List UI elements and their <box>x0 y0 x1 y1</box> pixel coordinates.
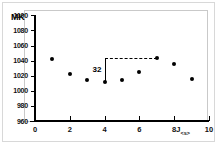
x-axis-tick <box>105 116 106 121</box>
data-point <box>155 56 159 60</box>
x-axis-tick-label: 10 <box>201 126 217 134</box>
data-point <box>68 72 72 76</box>
y-axis-tick-label: 1000 <box>2 87 28 94</box>
y-axis-tick-label: 1040 <box>2 57 28 64</box>
y-axis-tick-label: 1080 <box>2 27 28 34</box>
y-axis-tick-label: 980 <box>2 102 28 109</box>
x-axis-tick <box>139 116 140 121</box>
data-point <box>137 70 141 74</box>
data-point <box>50 57 54 61</box>
y-axis-tick-label: 960 <box>2 118 28 125</box>
y-axis-tick <box>31 106 36 107</box>
y-axis-tick <box>31 46 36 47</box>
x-axis-tick <box>209 116 210 121</box>
data-point <box>103 80 107 84</box>
y-axis-tick <box>30 121 37 122</box>
data-point <box>85 78 89 82</box>
x-axis-tick-label: 0 <box>27 126 43 134</box>
y-axis-tick <box>31 76 36 77</box>
chart-screenshot: MK J<s> 960980100010201040106010801100 0… <box>0 0 219 145</box>
x-axis-tick-label: 4 <box>97 126 113 134</box>
y-axis-tick <box>31 91 36 92</box>
plot-area: MK J<s> 960980100010201040106010801100 0… <box>0 0 219 145</box>
y-axis-tick <box>31 15 36 16</box>
y-axis-tick-label: 1020 <box>2 72 28 79</box>
y-axis-tick-label: 1100 <box>2 12 28 19</box>
data-point <box>172 62 176 66</box>
x-axis-tick-label: 6 <box>131 126 147 134</box>
x-axis-tick-label: 2 <box>62 126 78 134</box>
x-axis-tick-label: 8 <box>166 126 182 134</box>
annotation-vertical-line <box>105 58 106 81</box>
y-axis-tick <box>31 30 36 31</box>
annotation-dashed-line <box>105 58 157 59</box>
data-point <box>190 77 194 81</box>
annotation-value-label: 32 <box>93 66 102 74</box>
y-axis-tick <box>31 61 36 62</box>
data-point <box>120 78 124 82</box>
x-axis-line <box>34 120 209 122</box>
x-axis-tick <box>70 116 71 121</box>
y-axis-tick-label: 1060 <box>2 42 28 49</box>
x-axis-tick <box>174 116 175 121</box>
